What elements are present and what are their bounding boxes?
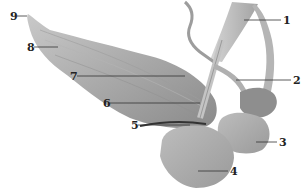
specimen-illustration <box>0 0 305 190</box>
label-4: 4 <box>230 166 238 177</box>
label-7: 7 <box>70 71 78 82</box>
label-9: 9 <box>10 11 18 22</box>
label-8: 8 <box>27 42 35 53</box>
anatomical-specimen-figure: 1 2 3 4 5 6 7 8 9 <box>0 0 305 190</box>
lobe-4 <box>160 126 234 188</box>
label-1: 1 <box>283 15 291 26</box>
label-3: 3 <box>279 137 287 148</box>
label-6: 6 <box>103 98 111 109</box>
label-2: 2 <box>293 75 301 86</box>
label-5: 5 <box>131 120 139 131</box>
